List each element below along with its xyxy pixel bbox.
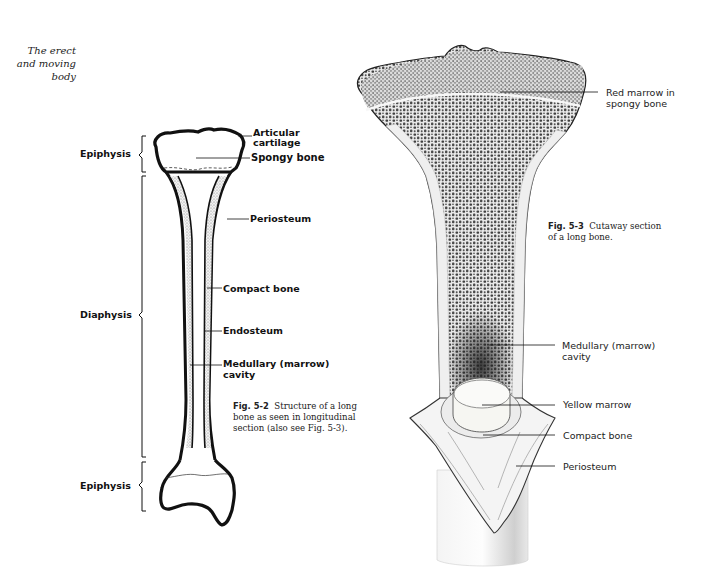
label-periosteum: Periosteum <box>250 213 311 224</box>
label-epiphysis-top: Epiphysis <box>80 148 131 159</box>
yellow-marrow-top <box>454 380 510 408</box>
label-diaphysis: Diaphysis <box>80 309 132 320</box>
label-medullary-cavity: Medullary (marrow) cavity <box>223 358 329 380</box>
label-compact-bone-5-3: Compact bone <box>563 430 632 441</box>
textbook-page: The erect and moving body <box>0 0 715 570</box>
label-red-marrow: Red marrow in spongy bone <box>606 87 675 109</box>
label-endosteum: Endosteum <box>223 325 283 336</box>
label-periosteum-5-3: Periosteum <box>563 461 616 472</box>
caption-fig-5-2-label: Fig. 5-2 <box>233 401 269 411</box>
caption-fig-5-2: Fig. 5-2 Structure of a long bone as see… <box>233 401 368 434</box>
label-articular-cartilage: Articular cartilage <box>253 128 300 148</box>
label-epiphysis-bottom: Epiphysis <box>80 480 131 491</box>
caption-fig-5-3: Fig. 5-3 Cutaway section of a long bone. <box>548 221 698 243</box>
label-yellow-marrow: Yellow marrow <box>563 399 631 410</box>
label-spongy-bone: Spongy bone <box>251 152 324 163</box>
label-medullary-cavity-5-3: Medullary (marrow) cavity <box>562 340 655 362</box>
label-compact-bone: Compact bone <box>223 283 300 294</box>
caption-fig-5-3-label: Fig. 5-3 <box>548 221 584 231</box>
